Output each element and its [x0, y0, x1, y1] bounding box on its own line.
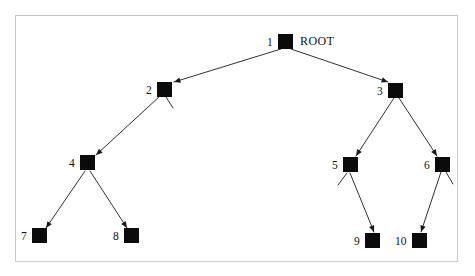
edge-5-to-9 — [350, 173, 374, 232]
node-label-3: 3 — [377, 85, 383, 97]
node-1[interactable] — [278, 34, 293, 49]
node-8[interactable] — [124, 228, 139, 243]
root-text-label: ROOT — [300, 35, 334, 48]
node-label-8: 8 — [113, 230, 119, 242]
edge-1-to-2 — [174, 49, 281, 83]
node-label-10: 10 — [395, 235, 407, 247]
node-6[interactable] — [435, 157, 450, 172]
node-label-2: 2 — [146, 84, 152, 96]
edge-6-to-10 — [420, 172, 441, 232]
edge-4-to-8 — [90, 171, 127, 228]
edge-stub-2 — [166, 97, 173, 108]
edge-1-to-3 — [291, 49, 388, 83]
edge-2-to-4 — [96, 97, 159, 155]
edge-3-to-5 — [356, 98, 394, 156]
node-label-9: 9 — [354, 235, 360, 247]
node-10[interactable] — [412, 233, 427, 248]
node-label-7: 7 — [21, 230, 27, 242]
node-7[interactable] — [32, 228, 47, 243]
node-label-1: 1 — [267, 36, 273, 48]
node-4[interactable] — [80, 155, 95, 170]
edge-3-to-6 — [399, 98, 437, 156]
node-5[interactable] — [343, 157, 358, 172]
node-label-5: 5 — [332, 159, 338, 171]
node-2[interactable] — [157, 82, 172, 97]
node-label-6: 6 — [424, 159, 430, 171]
edge-stub-6 — [446, 172, 453, 184]
node-3[interactable] — [388, 83, 403, 98]
edge-stub-5 — [338, 173, 347, 185]
node-label-4: 4 — [69, 157, 75, 169]
edge-4-to-7 — [46, 171, 85, 228]
node-9[interactable] — [365, 233, 380, 248]
diagram-page: 1ROOT2345678910 — [0, 0, 475, 276]
